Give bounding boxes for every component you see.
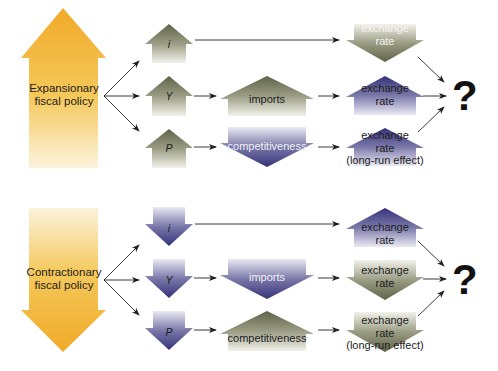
contractionary-exchange-rate-P-label: exchange rate (long-run effect) (340, 314, 430, 352)
exchange-label-line1: exchange (346, 82, 424, 95)
contractionary-policy-label-line1: Contractionary (18, 266, 110, 279)
exchange-label-line3: (long-run effect) (340, 154, 430, 167)
expansionary-var-Y-label: Y (152, 90, 186, 102)
expansionary-fan-connectors (104, 61, 139, 131)
exchange-label-line1: exchange (346, 264, 424, 277)
exchange-label-line1: exchange (340, 314, 430, 327)
contractionary-var-P-label: P (152, 326, 186, 338)
contractionary-competitiveness-label: competitiveness (220, 332, 314, 345)
exchange-label-line3: (long-run effect) (340, 339, 430, 352)
exchange-label-line2: rate (340, 327, 430, 340)
exchange-label-line2: rate (346, 35, 424, 48)
exchange-label-line2: rate (340, 142, 430, 155)
exchange-label-line1: exchange (340, 129, 430, 142)
expansionary-policy-label-line1: Expansionary (22, 82, 106, 95)
expansionary-var-P-label: P (152, 142, 186, 154)
contractionary-exchange-rate-Y-label: exchange rate (346, 264, 424, 289)
contractionary-competitiveness-up-arrow (220, 311, 314, 351)
expansionary-exchange-rate-Y-label: exchange rate (346, 82, 424, 107)
expansionary-competitiveness-label: competitiveness (220, 140, 314, 153)
contractionary-policy-label: Contractionary fiscal policy (18, 266, 110, 292)
exchange-label-line2: rate (346, 277, 424, 290)
expansionary-policy-label-line2: fiscal policy (22, 95, 106, 108)
expansionary-imports-label: imports (220, 93, 314, 106)
contractionary-exchange-rate-i-label: exchange rate (346, 221, 424, 246)
contractionary-var-i-label: i (152, 222, 186, 234)
contractionary-outcome-question-mark: ? (452, 256, 478, 304)
exchange-label-line1: exchange (346, 221, 424, 234)
exchange-label-line2: rate (346, 95, 424, 108)
expansionary-outcome-question-mark: ? (452, 72, 478, 120)
expansionary-exchange-rate-P-label: exchange rate (long-run effect) (340, 129, 430, 167)
contractionary-policy-label-line2: fiscal policy (18, 279, 110, 292)
exchange-label-line1: exchange (346, 22, 424, 35)
contractionary-var-Y-label: Y (152, 274, 186, 286)
exchange-label-line2: rate (346, 234, 424, 247)
expansionary-var-i-label: i (152, 38, 186, 50)
contractionary-imports-label: imports (220, 271, 314, 284)
expansionary-policy-label: Expansionary fiscal policy (22, 82, 106, 108)
expansionary-exchange-rate-i-label: exchange rate (346, 22, 424, 47)
